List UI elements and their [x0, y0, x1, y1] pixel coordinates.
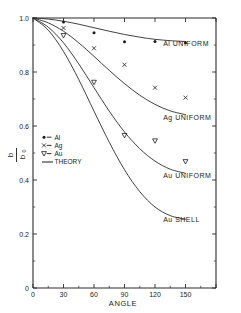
y-tick-label: 0	[25, 285, 29, 292]
legend-item-al: Al	[43, 134, 61, 141]
y-axis-numerator: b	[6, 152, 15, 157]
y-tick-label: 0.2	[19, 231, 29, 238]
x-tick-label: 30	[60, 291, 68, 298]
data-point-au	[183, 160, 188, 164]
legend-item-au: Au	[42, 150, 63, 157]
scatter-plot: 0306090120150 00.20.40.60.81.0 Al UNIFOR…	[0, 0, 241, 313]
y-axis-title: b b 0	[6, 148, 27, 162]
x-tick-label: 60	[90, 291, 98, 298]
legend-item-ag: Ag	[42, 142, 63, 150]
data-point-au	[122, 133, 127, 137]
data-point-ag	[92, 46, 96, 50]
y-tick-label: 0.8	[19, 69, 29, 76]
series-au	[61, 34, 188, 164]
y-axis-denominator: b	[18, 154, 27, 159]
y-tick-label: 0.6	[19, 123, 29, 130]
legend-label: Ag	[55, 142, 63, 150]
data-point-au	[61, 34, 66, 38]
annotation-ag-uniform: Ag UNIFORM	[163, 114, 211, 122]
data-point-al	[93, 31, 96, 34]
legend-label: Au	[55, 150, 63, 157]
data-point-ag	[153, 86, 157, 90]
data-point-al	[154, 40, 157, 43]
legend: AlAgAuTHEORY	[42, 134, 83, 166]
annotation-au-shell: Au SHELL	[163, 216, 200, 223]
theory-curve-al-uniform	[33, 18, 186, 41]
data-point-au	[153, 139, 158, 143]
x-axis-tick-labels: 0306090120150	[31, 291, 191, 298]
theory-curve-ag-uniform	[33, 18, 186, 115]
legend-marker-au	[42, 152, 47, 156]
x-tick-label: 0	[31, 291, 35, 298]
series-ag	[62, 26, 188, 100]
x-tick-label: 120	[149, 291, 161, 298]
legend-item-theory: THEORY	[42, 158, 82, 165]
data-point-al	[62, 21, 65, 24]
y-axis-denominator-subscript: 0	[21, 149, 27, 152]
x-tick-label: 90	[121, 291, 129, 298]
annotation-au-uniform: Au UNIFORM	[163, 172, 211, 179]
legend-marker-ag	[42, 143, 46, 147]
x-tick-label: 150	[180, 291, 192, 298]
data-point-ag	[123, 63, 127, 67]
legend-label: THEORY	[55, 158, 83, 165]
annotation-al-uniform: Al UNIFORM	[163, 40, 209, 47]
legend-label: Al	[55, 134, 61, 141]
figure-container: 0306090120150 00.20.40.60.81.0 Al UNIFOR…	[0, 0, 241, 313]
y-tick-label: 0.4	[19, 177, 29, 184]
curve-annotations: Al UNIFORMAg UNIFORMAu UNIFORMAu SHELL	[163, 40, 211, 223]
data-point-ag	[184, 96, 188, 100]
data-point-au	[92, 80, 97, 84]
x-axis-title: ANGLE	[109, 299, 137, 308]
data-point-ag	[62, 26, 66, 30]
legend-marker-al	[43, 136, 46, 139]
data-point-al	[123, 40, 126, 43]
y-tick-label: 1.0	[19, 15, 29, 22]
